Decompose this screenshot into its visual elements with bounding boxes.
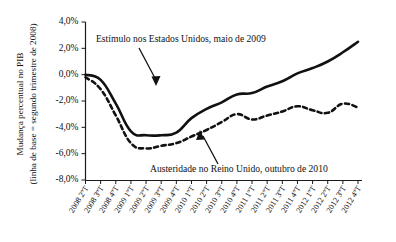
y-tick-label: 0,0% bbox=[59, 69, 79, 79]
y-tick-label: -2,0% bbox=[56, 95, 79, 105]
x-axis-ticks: 2008 2ºT2008 3ºT2008 4ºT2009 1ºT2009 2ºT… bbox=[67, 180, 363, 215]
y-axis-title: Mudança percentual no PIB (linha de base… bbox=[15, 23, 38, 184]
annotation-austerity-label: Austeridade no Reino Unido, outubro de 2… bbox=[150, 163, 328, 174]
series-line-austerity bbox=[86, 77, 359, 148]
y-tick-label: -6,0% bbox=[56, 148, 79, 158]
y-axis-title-line1: Mudança percentual no PIB bbox=[15, 53, 25, 156]
y-tick-label: 4,0% bbox=[59, 16, 79, 26]
line-chart: Mudança percentual no PIB (linha de base… bbox=[0, 0, 396, 242]
annotation-austerity-arrow bbox=[196, 130, 218, 164]
y-tick-label: -8,0% bbox=[56, 174, 79, 184]
y-tick-label: -4,0% bbox=[56, 122, 79, 132]
chart-page: Mudança percentual no PIB (linha de base… bbox=[0, 0, 396, 242]
annotation-stimulus-label: Estímulo nos Estados Unidos, maio de 200… bbox=[96, 33, 266, 44]
y-axis-ticks: 4,0%2,0%0,0%-2,0%-4,0%-6,0%-8,0% bbox=[56, 16, 86, 184]
annotation-stimulus-arrow bbox=[139, 48, 161, 86]
y-axis-title-line2: (linha de base = segundo trimestre de 20… bbox=[28, 23, 38, 184]
y-tick-label: 2,0% bbox=[59, 43, 79, 53]
